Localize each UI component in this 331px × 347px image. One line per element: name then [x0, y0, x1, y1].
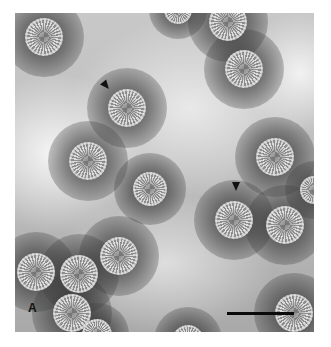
- arrowhead-icon: [232, 182, 240, 191]
- panel-label: A: [28, 301, 37, 315]
- scale-bar: [227, 312, 294, 315]
- virus-particle: [100, 237, 138, 275]
- virus-particle: [215, 201, 253, 239]
- micrograph-image: A: [15, 13, 314, 332]
- virus-particle: [25, 18, 63, 56]
- virus-particle: [256, 138, 294, 176]
- virus-particle: [60, 255, 98, 293]
- virus-particle: [266, 206, 304, 244]
- virus-particle: [225, 50, 263, 88]
- virus-particle: [108, 89, 146, 127]
- virus-particle: [69, 142, 107, 180]
- virus-particle: [17, 253, 55, 291]
- virus-particle: [133, 172, 167, 206]
